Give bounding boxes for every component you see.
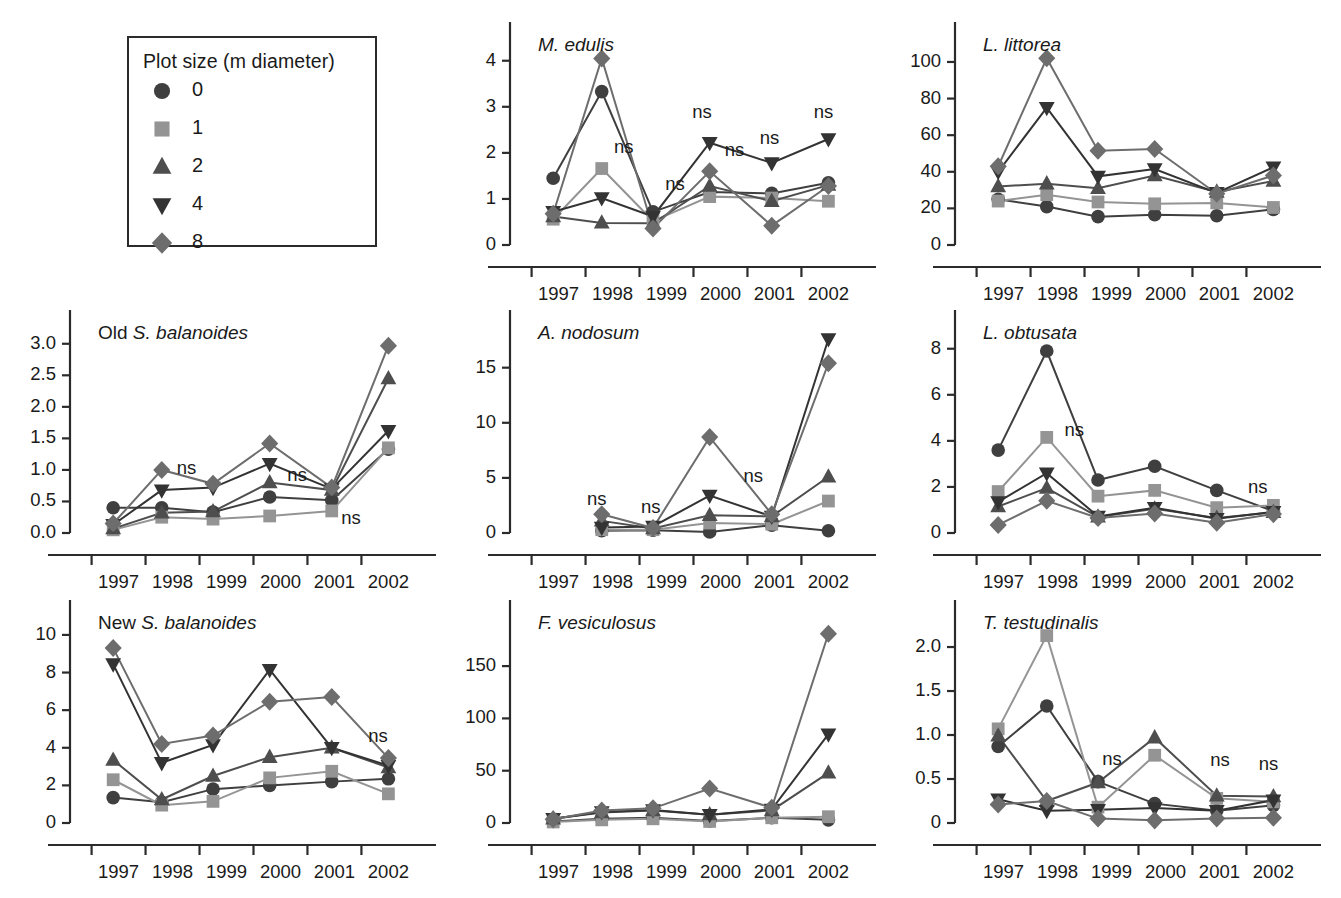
y-axis-tick-label: 60 (871, 123, 941, 145)
legend-item-2: 2 (147, 152, 347, 182)
y-axis-tick-label: 3.0 (0, 332, 56, 354)
legend-item-label: 0 (192, 78, 203, 101)
x-axis-tick-label: 2001 (1193, 861, 1245, 883)
y-axis-tick-label: 2 (0, 773, 56, 795)
triangle-down-marker-icon (147, 190, 177, 220)
x-axis-tick-label: 2000 (254, 861, 306, 883)
panel-title-a-nodosum: A. nodosum (538, 322, 639, 344)
y-axis-tick-label: 150 (426, 654, 496, 676)
x-axis-tick-label: 2000 (694, 861, 746, 883)
y-axis-tick-label: 1.5 (0, 426, 56, 448)
y-axis-tick-label: 0 (426, 521, 496, 543)
y-axis-tick-label: 4 (426, 49, 496, 71)
x-axis-tick-label: 2000 (694, 283, 746, 305)
y-axis-tick-label: 0 (871, 811, 941, 833)
x-axis-tick-label: 2002 (802, 283, 854, 305)
significance-annotation: ns (177, 457, 197, 479)
y-axis-tick-label: 0 (871, 233, 941, 255)
y-axis-tick-label: 6 (0, 698, 56, 720)
y-axis-tick-label: 1.0 (0, 458, 56, 480)
legend-title: Plot size (m diameter) (143, 50, 335, 73)
x-axis-tick-label: 1997 (533, 571, 585, 593)
x-axis-tick-label: 1999 (1086, 571, 1138, 593)
significance-annotation: ns (725, 139, 745, 161)
y-axis-tick-label: 5 (426, 466, 496, 488)
panel-title-m-edulis: M. edulis (538, 34, 614, 56)
significance-annotation: ns (1259, 753, 1279, 775)
x-axis-tick-label: 1999 (201, 571, 253, 593)
significance-annotation: ns (1248, 476, 1268, 498)
x-axis-tick-label: 2000 (1139, 571, 1191, 593)
y-axis-tick-label: 80 (871, 87, 941, 109)
legend-item-0: 0 (147, 76, 347, 106)
y-axis-tick-label: 0 (0, 811, 56, 833)
legend-item-8: 8 (147, 228, 347, 258)
x-axis-tick-label: 1997 (978, 571, 1030, 593)
y-axis-tick-label: 6 (871, 383, 941, 405)
significance-annotation: ns (1064, 419, 1084, 441)
y-axis-tick-label: 2.5 (0, 363, 56, 385)
x-axis-tick-label: 2001 (308, 861, 360, 883)
x-axis-tick-label: 1999 (1086, 283, 1138, 305)
x-axis-tick-label: 2002 (802, 861, 854, 883)
panel-title-f-vesiculosus: F. vesiculosus (538, 612, 656, 634)
y-axis-tick-label: 2 (426, 141, 496, 163)
significance-annotation: ns (1210, 749, 1230, 771)
x-axis-tick-label: 2001 (748, 283, 800, 305)
x-axis-tick-label: 2001 (748, 861, 800, 883)
x-axis-tick-label: 2001 (1193, 571, 1245, 593)
x-axis-tick-label: 1997 (978, 283, 1030, 305)
significance-annotation: ns (341, 507, 361, 529)
y-axis-tick-label: 2.0 (871, 635, 941, 657)
y-axis-tick-label: 100 (871, 50, 941, 72)
x-axis-tick-label: 1998 (1032, 283, 1084, 305)
y-axis-tick-label: 1.0 (871, 723, 941, 745)
panel-title-l-obtusata: L. obtusata (983, 322, 1077, 344)
panel-l-littorea: L. littorea02040608010019971998199920002… (955, 40, 1341, 335)
x-axis-tick-label: 1998 (587, 861, 639, 883)
panel-title-l-littorea: L. littorea (983, 34, 1061, 56)
y-axis-tick-label: 0.0 (0, 521, 56, 543)
significance-annotation: ns (614, 136, 634, 158)
x-axis-tick-label: 2002 (1247, 571, 1299, 593)
significance-annotation: ns (1102, 748, 1122, 770)
plot-size-legend: Plot size (m diameter) 01248 (127, 36, 377, 247)
triangle-up-marker-icon (147, 152, 177, 182)
x-axis-tick-label: 1998 (1032, 571, 1084, 593)
significance-annotation: ns (287, 464, 307, 486)
x-axis-tick-label: 1997 (978, 861, 1030, 883)
y-axis-tick-label: 0 (426, 233, 496, 255)
significance-annotation: ns (744, 465, 764, 487)
x-axis-tick-label: 2000 (1139, 861, 1191, 883)
legend-item-label: 2 (192, 154, 203, 177)
y-axis-tick-label: 4 (871, 429, 941, 451)
panel-l-obtusata: L. obtusata02468199719981999200020012002… (955, 328, 1341, 623)
significance-annotation: ns (368, 725, 388, 747)
y-axis-tick-label: 0.5 (871, 767, 941, 789)
x-axis-tick-label: 2000 (254, 571, 306, 593)
legend-item-label: 4 (192, 192, 203, 215)
x-axis-tick-label: 1999 (641, 861, 693, 883)
legend-item-4: 4 (147, 190, 347, 220)
x-axis-tick-label: 1998 (1032, 861, 1084, 883)
x-axis-tick-label: 1999 (201, 861, 253, 883)
y-axis-tick-label: 2 (871, 475, 941, 497)
x-axis-tick-label: 2002 (362, 861, 414, 883)
x-axis-tick-label: 2000 (1139, 283, 1191, 305)
y-axis-tick-label: 2.0 (0, 395, 56, 417)
y-axis-tick-label: 8 (871, 337, 941, 359)
diamond-marker-icon (147, 228, 177, 258)
y-axis-tick-label: 10 (426, 411, 496, 433)
x-axis-tick-label: 1997 (533, 861, 585, 883)
x-axis-tick-label: 2002 (362, 571, 414, 593)
x-axis-tick-label: 1999 (1086, 861, 1138, 883)
panel-title-new-s-balanoides: New S. balanoides (98, 612, 256, 634)
x-axis-tick-label: 2002 (802, 571, 854, 593)
y-axis-tick-label: 1.5 (871, 679, 941, 701)
significance-annotation: ns (760, 127, 780, 149)
y-axis-tick-label: 20 (871, 196, 941, 218)
x-axis-tick-label: 1998 (587, 571, 639, 593)
significance-annotation: ns (665, 173, 685, 195)
panel-f-vesiculosus: F. vesiculosus05010015019971998199920002… (510, 618, 930, 898)
y-axis-tick-label: 1 (426, 187, 496, 209)
